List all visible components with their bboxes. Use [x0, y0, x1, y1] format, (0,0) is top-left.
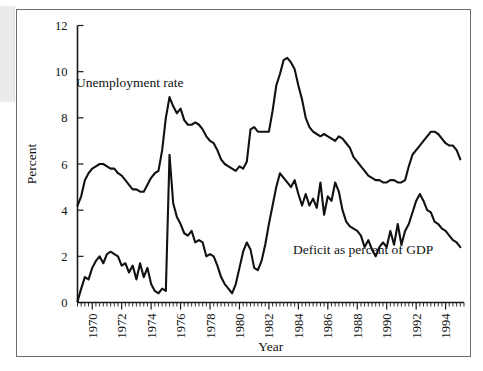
x-tick-label: 1988	[351, 314, 365, 339]
series-group	[78, 58, 461, 302]
y-tick-label: 12	[55, 19, 68, 33]
x-tick-label: 1974	[145, 313, 159, 339]
x-axis-title: Year	[258, 339, 283, 354]
x-tick-label: 1976	[174, 314, 188, 339]
y-axis-title: Percent	[24, 144, 39, 185]
x-tick-label: 1970	[86, 314, 100, 339]
x-tick-label: 1972	[115, 314, 129, 339]
y-tick-label: 8	[61, 111, 67, 125]
deficit-percent-gdp-line	[78, 155, 461, 302]
x-tick-label: 1980	[233, 314, 247, 339]
x-tick-label: 1992	[410, 314, 424, 339]
unemployment-rate-label: Unemployment rate	[76, 75, 184, 90]
x-tick-label: 1986	[321, 314, 335, 339]
chart-plot: 024681012 197019721974197619781980198219…	[0, 0, 483, 371]
x-tick-label: 1994	[439, 313, 453, 339]
y-tick-label: 2	[61, 250, 67, 264]
x-tick-group	[92, 303, 445, 310]
tick-label-group: 024681012 197019721974197619781980198219…	[55, 19, 453, 339]
y-tick-label: 6	[61, 158, 67, 172]
axes-group	[78, 26, 465, 310]
x-tick-label: 1984	[292, 313, 306, 339]
y-tick-label: 10	[55, 65, 68, 79]
y-tick-label: 0	[61, 296, 67, 310]
y-tick-label: 4	[61, 204, 68, 218]
annotation-group: Unemployment rate Deficit as percent of …	[76, 75, 433, 257]
deficit-percent-gdp-label: Deficit as percent of GDP	[293, 242, 433, 257]
x-tick-label: 1978	[204, 314, 218, 339]
x-tick-label: 1990	[380, 314, 394, 339]
y-tick-group	[78, 26, 84, 303]
figure-canvas: 024681012 197019721974197619781980198219…	[0, 0, 483, 371]
x-tick-label: 1982	[262, 314, 276, 339]
